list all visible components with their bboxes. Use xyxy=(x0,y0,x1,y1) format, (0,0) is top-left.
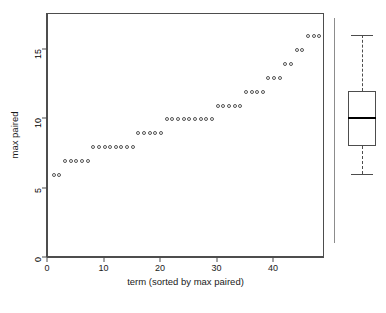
scatter-point xyxy=(278,76,282,80)
x-axis-tick xyxy=(103,257,104,262)
x-axis-tick xyxy=(273,257,274,262)
scatter-point xyxy=(193,117,197,121)
scatter-point xyxy=(91,145,95,149)
x-axis-tick xyxy=(47,257,48,262)
y-axis-tick xyxy=(42,118,47,119)
y-axis-tick xyxy=(42,187,47,188)
scatter-point xyxy=(266,76,270,80)
y-axis-tick-label: 5 xyxy=(34,188,43,193)
scatter-point xyxy=(295,48,299,52)
scatter-point xyxy=(238,104,242,108)
scatter-point xyxy=(74,159,78,163)
y-axis-tick xyxy=(42,49,47,50)
scatter-point xyxy=(170,117,174,121)
scatter-point xyxy=(142,131,146,135)
scatter-panel: 051015 010203040 max paired term (sorted… xyxy=(0,0,330,313)
scatter-point xyxy=(136,131,140,135)
scatter-point xyxy=(216,104,220,108)
scatter-point xyxy=(210,117,214,121)
scatter-point xyxy=(165,117,169,121)
boxplot-upper-cap xyxy=(351,35,373,36)
scatter-point xyxy=(283,62,287,66)
scatter-point xyxy=(306,34,310,38)
boxplot-area xyxy=(340,13,384,257)
x-axis-title: term (sorted by max paired) xyxy=(47,276,324,287)
x-axis-tick-label: 40 xyxy=(268,264,278,273)
x-axis: 010203040 xyxy=(47,257,324,263)
scatter-point xyxy=(255,90,259,94)
boxplot-lower-cap xyxy=(351,174,373,175)
scatter-point xyxy=(227,104,231,108)
x-axis-tick xyxy=(160,257,161,262)
scatter-point xyxy=(261,90,265,94)
scatter-point xyxy=(182,117,186,121)
scatter-point xyxy=(57,173,61,177)
scatter-point xyxy=(312,34,316,38)
scatter-point xyxy=(114,145,118,149)
scatter-point xyxy=(131,145,135,149)
scatter-point xyxy=(103,145,107,149)
scatter-point xyxy=(159,131,163,135)
scatter-point xyxy=(233,104,237,108)
scatter-point xyxy=(176,117,180,121)
scatter-point xyxy=(153,131,157,135)
x-axis-spine xyxy=(47,257,324,258)
scatter-point xyxy=(199,117,203,121)
scatter-point xyxy=(289,62,293,66)
scatter-point xyxy=(300,48,304,52)
y-axis-tick-label: 0 xyxy=(34,257,43,262)
boxplot-panel xyxy=(330,0,386,313)
scatter-point xyxy=(97,145,101,149)
scatter-point xyxy=(221,104,225,108)
y-axis-spine xyxy=(46,13,47,257)
scatter-point xyxy=(187,117,191,121)
scatter-point xyxy=(317,34,321,38)
x-axis-tick-label: 20 xyxy=(155,264,165,273)
x-axis-tick-label: 0 xyxy=(44,264,49,273)
panel-divider xyxy=(334,18,335,243)
figure-root: 051015 010203040 max paired term (sorted… xyxy=(0,0,386,313)
y-axis-title-wrap: max paired xyxy=(8,13,20,257)
x-axis-tick-label: 10 xyxy=(99,264,109,273)
scatter-point xyxy=(148,131,152,135)
y-axis: 051015 xyxy=(41,13,47,257)
y-axis-tick-label: 15 xyxy=(34,49,43,59)
y-axis-title: max paired xyxy=(9,112,20,159)
scatter-point xyxy=(63,159,67,163)
x-axis-tick-label: 30 xyxy=(212,264,222,273)
scatter-point xyxy=(204,117,208,121)
boxplot-upper-whisker xyxy=(362,35,363,90)
plot-frame xyxy=(47,13,324,257)
scatter-point xyxy=(80,159,84,163)
scatter-point xyxy=(250,90,254,94)
boxplot-lower-whisker xyxy=(362,146,363,174)
scatter-points-layer xyxy=(48,14,323,256)
boxplot-median-line xyxy=(348,117,376,119)
x-axis-tick xyxy=(216,257,217,262)
scatter-point xyxy=(69,159,73,163)
y-axis-tick-label: 10 xyxy=(34,118,43,128)
scatter-point xyxy=(125,145,129,149)
scatter-point xyxy=(108,145,112,149)
scatter-point xyxy=(86,159,90,163)
scatter-point xyxy=(272,76,276,80)
scatter-point xyxy=(119,145,123,149)
scatter-point xyxy=(244,90,248,94)
scatter-point xyxy=(52,173,56,177)
